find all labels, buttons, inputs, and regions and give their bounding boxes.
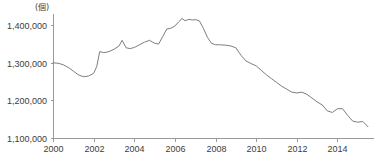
y-axis-tick-labels: 1,400,0001,300,0001,200,0001,100,000 xyxy=(7,21,47,144)
x-axis-tick-label: 2002 xyxy=(84,144,104,154)
line-chart: (個) 1,400,0001,300,0001,200,0001,100,000… xyxy=(0,0,376,160)
y-axis-tick-label: 1,400,000 xyxy=(7,21,47,31)
y-axis-tick-label: 1,300,000 xyxy=(7,59,47,69)
x-axis-tick-label: 2004 xyxy=(124,144,144,154)
y-axis-tick-label: 1,100,000 xyxy=(7,134,47,144)
x-axis-tick-label: 2008 xyxy=(206,144,226,154)
x-axis-tick-label: 2014 xyxy=(327,144,347,154)
unit-label-group: (個) xyxy=(35,2,49,12)
x-axis-tick-label: 2012 xyxy=(287,144,307,154)
x-axis-tick-label: 2006 xyxy=(165,144,185,154)
chart-canvas: (個) 1,400,0001,300,0001,200,0001,100,000… xyxy=(0,0,376,160)
x-axis-tick-label: 2010 xyxy=(246,144,266,154)
y-axis-unit-label: (個) xyxy=(35,2,49,12)
x-axis-tick-labels: 20002002200420062008201020122014 xyxy=(43,144,347,154)
x-axis-tick-label: 2000 xyxy=(43,144,63,154)
y-axis-tick-label: 1,200,000 xyxy=(7,96,47,106)
data-series-line xyxy=(53,19,368,127)
